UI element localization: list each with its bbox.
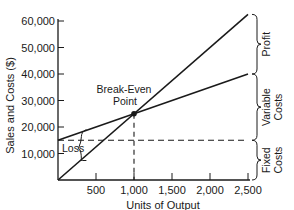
variable-costs-label-line2: Costs xyxy=(272,94,284,121)
total-costs-line xyxy=(58,74,248,140)
break-even-label-line1: Break-Even xyxy=(97,83,152,95)
x-tick-label: 2,000 xyxy=(196,184,224,196)
y-tick-label: 10,000 xyxy=(21,148,55,160)
break-even-chart: 10,00020,00030,00040,00050,00060,0005001… xyxy=(0,0,294,210)
fixed-costs-label-line2: Costs xyxy=(272,147,284,174)
x-tick-label: 2,500 xyxy=(234,184,262,196)
y-axis-title: Sales and Costs ($) xyxy=(4,57,16,154)
break-even-point-marker xyxy=(131,111,137,117)
fixed-costs-label-line1: Fixed xyxy=(260,147,272,173)
y-tick-label: 60,000 xyxy=(21,15,55,27)
profit-label-line1: Profit xyxy=(260,32,272,57)
x-tick-label: 1,000 xyxy=(120,184,148,196)
y-tick-label: 50,000 xyxy=(21,42,55,54)
loss-label: Loss xyxy=(62,142,84,154)
break-even-label-line2: Point xyxy=(113,95,137,107)
y-tick-label: 40,000 xyxy=(21,68,55,80)
plot-area: 10,00020,00030,00040,00050,00060,0005001… xyxy=(4,14,284,210)
sales-revenue-line xyxy=(58,14,248,180)
x-tick-label: 500 xyxy=(87,184,105,196)
x-axis-title: Units of Output xyxy=(126,199,199,210)
x-tick-label: 1,500 xyxy=(158,184,186,196)
y-tick-label: 20,000 xyxy=(21,121,55,133)
y-tick-label: 30,000 xyxy=(21,95,55,107)
variable-costs-label-line1: Variable xyxy=(260,88,272,126)
